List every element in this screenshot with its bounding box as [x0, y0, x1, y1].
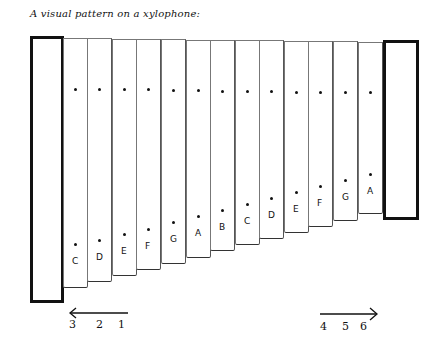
upper-dot-marker	[369, 91, 372, 94]
note-label: C	[244, 216, 250, 226]
note-label: E	[121, 246, 127, 256]
right-end-block	[383, 40, 419, 220]
lower-dot-marker	[369, 173, 372, 176]
upper-dot-marker	[295, 91, 298, 94]
note-label: F	[145, 241, 150, 251]
upper-dot-marker	[147, 88, 150, 91]
right-arrow-label-5: 5	[342, 320, 349, 333]
lower-dot-marker	[319, 185, 322, 188]
note-label: D	[96, 252, 103, 262]
lower-dot-marker	[147, 228, 150, 231]
xylophone-bar-g-5	[161, 39, 186, 264]
left-arrow-label-2: 2	[96, 318, 103, 331]
xylophone-bar-c-8	[235, 40, 260, 245]
note-label: D	[268, 210, 275, 220]
right-arrow-label-6: 6	[360, 320, 367, 333]
xylophone-bar-d-2	[87, 38, 112, 282]
lower-dot-marker	[295, 191, 298, 194]
lower-dot-marker	[74, 243, 77, 246]
note-label: C	[72, 256, 78, 266]
left-arrow-icon	[68, 308, 130, 318]
xylophone-bar-e-3	[112, 39, 137, 276]
upper-dot-marker	[74, 88, 77, 91]
upper-dot-marker	[123, 88, 126, 91]
xylophone-bar-c-1	[63, 38, 88, 288]
left-end-block	[30, 36, 64, 303]
right-arrow-label-4: 4	[320, 320, 327, 333]
lower-dot-marker	[270, 197, 273, 200]
note-label: F	[317, 198, 322, 208]
upper-dot-marker	[98, 88, 101, 91]
upper-dot-marker	[221, 90, 224, 93]
xylophone-bar-a-6	[186, 40, 211, 258]
xylophone-bar-f-4	[136, 39, 161, 270]
upper-dot-marker	[172, 89, 175, 92]
lower-dot-marker	[221, 209, 224, 212]
lower-dot-marker	[172, 221, 175, 224]
upper-dot-marker	[246, 90, 249, 93]
upper-dot-marker	[197, 89, 200, 92]
note-label: B	[219, 222, 225, 232]
note-label: G	[170, 234, 177, 244]
lower-dot-marker	[344, 179, 347, 182]
lower-dot-marker	[98, 239, 101, 242]
lower-dot-marker	[123, 233, 126, 236]
upper-dot-marker	[344, 91, 347, 94]
left-arrow-label-3: 3	[69, 318, 76, 331]
note-label: A	[195, 228, 201, 238]
left-arrow-label-1: 1	[118, 318, 125, 331]
lower-dot-marker	[246, 203, 249, 206]
lower-dot-marker	[197, 215, 200, 218]
note-label: E	[293, 204, 299, 214]
upper-dot-marker	[270, 90, 273, 93]
diagram-title: A visual pattern on a xylophone:	[30, 8, 200, 19]
xylophone-bar-b-7	[210, 40, 235, 251]
right-arrow-icon	[318, 308, 380, 320]
note-label: G	[342, 192, 349, 202]
upper-dot-marker	[319, 91, 322, 94]
note-label: A	[367, 186, 373, 196]
